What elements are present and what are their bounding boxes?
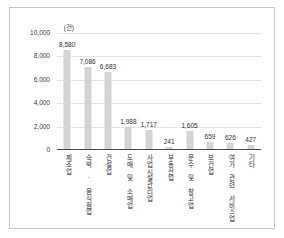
bar-value-label: 241 [164, 139, 175, 146]
bar-value-label: 626 [225, 135, 236, 142]
y-tick-label: 6,000 [10, 77, 50, 84]
bar[interactable] [104, 72, 111, 150]
bar-value-label: 6,683 [100, 64, 116, 71]
bar-slot: 1,605 [179, 33, 199, 150]
bar-value-label: 7,086 [79, 59, 95, 66]
y-tick-label: 2,000 [10, 124, 50, 131]
y-axis-unit-label: (건) [48, 22, 74, 32]
x-category-label: 사업시설관리업 [145, 154, 152, 202]
bar-slot: 7,086 [77, 33, 97, 150]
x-category-label: 기타 [247, 154, 254, 168]
bar[interactable] [84, 67, 91, 150]
bar[interactable] [145, 130, 152, 150]
bar-slot: 659 [200, 33, 220, 150]
y-tick-label: 10,000 [10, 30, 50, 37]
x-category-label: 숙박 · 음식점업 [84, 154, 91, 215]
axis-baseline [57, 149, 261, 150]
bar[interactable] [186, 131, 193, 150]
bar-slot: 1,717 [139, 33, 159, 150]
x-category-label: 여가 관련 서비스업 [227, 154, 234, 222]
bar-slot: 1,988 [118, 33, 138, 150]
y-tick-label: 8,000 [10, 53, 50, 60]
bar[interactable] [64, 50, 71, 150]
x-category-label: 제조업 [64, 154, 71, 174]
y-tick-label: 4,000 [10, 100, 50, 107]
bar-slot: 241 [159, 33, 179, 150]
x-category-label: 건설업 [105, 154, 112, 174]
plot-area: 8,5807,0866,6831,9881,7172411,6056596264… [57, 33, 261, 150]
bar-slot: 8,580 [57, 33, 77, 150]
bar-slot: 6,683 [98, 33, 118, 150]
bar-slot: 626 [220, 33, 240, 150]
bar-value-label: 427 [245, 137, 256, 144]
chart-frame: (건) 8,5807,0866,6831,9881,7172411,605659… [9, 7, 275, 229]
x-category-label: 부동산업 [166, 154, 173, 181]
bar-value-label: 8,580 [59, 42, 75, 49]
bar-value-label: 1,717 [141, 122, 157, 129]
y-tick-label: 0 [10, 147, 50, 154]
bar-value-label: 1,605 [181, 123, 197, 130]
bar[interactable] [125, 127, 132, 150]
x-category-label: 운수 및 창고업 [186, 154, 193, 208]
x-category-label: 도매 및 소매업 [125, 154, 132, 208]
x-category-label: 보건업 [207, 154, 214, 174]
bar-slot: 427 [241, 33, 261, 150]
bar-value-label: 1,988 [120, 119, 136, 126]
bar-value-label: 659 [205, 134, 216, 141]
